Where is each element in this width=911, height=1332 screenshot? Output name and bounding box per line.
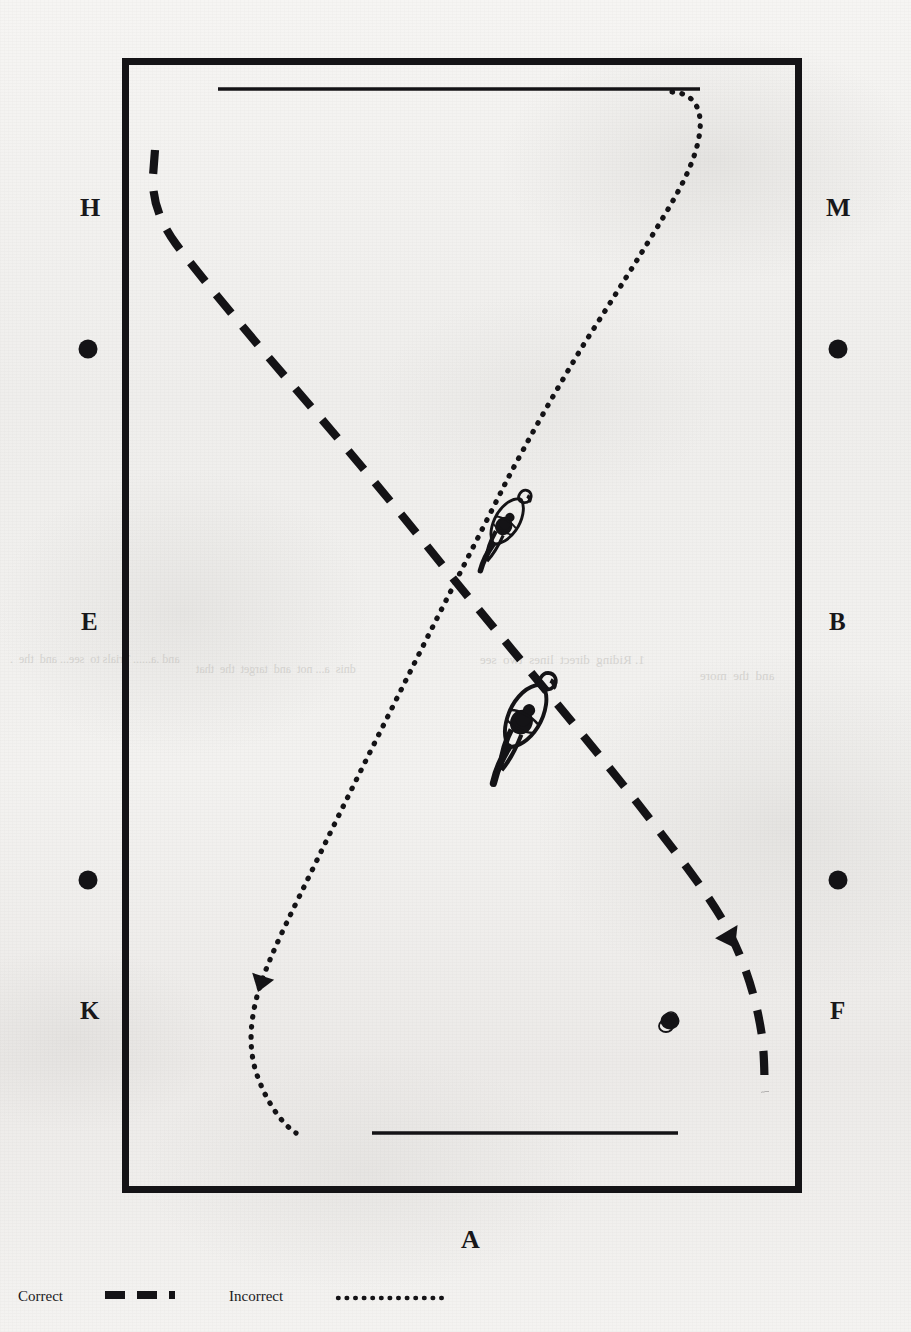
dot-F xyxy=(829,871,848,890)
legend-correct-label: Correct xyxy=(18,1288,63,1305)
arena-marker-M: M xyxy=(826,193,851,223)
incorrect-path-line xyxy=(251,92,700,1133)
arena-marker-K: K xyxy=(80,997,100,1025)
ink-blob-bottom-right xyxy=(659,1012,680,1032)
horse-rider-correct xyxy=(476,664,563,792)
arena-marker-B: B xyxy=(829,608,846,636)
arena-marker-E: E xyxy=(81,608,98,636)
arena-marker-F: F xyxy=(830,997,845,1025)
arena-diagram xyxy=(0,0,911,1332)
dot-M xyxy=(829,340,848,359)
legend-incorrect-label: Incorrect xyxy=(229,1288,283,1305)
arena-boundary xyxy=(126,62,799,1190)
arena-marker-A: A xyxy=(461,1225,480,1255)
arrowhead-incorrect xyxy=(247,972,274,996)
arena-marker-H: H xyxy=(80,193,100,223)
horse-rider-incorrect xyxy=(467,483,536,578)
correct-path-line xyxy=(153,150,765,1092)
dot-K xyxy=(79,871,98,890)
dot-H xyxy=(79,340,98,359)
